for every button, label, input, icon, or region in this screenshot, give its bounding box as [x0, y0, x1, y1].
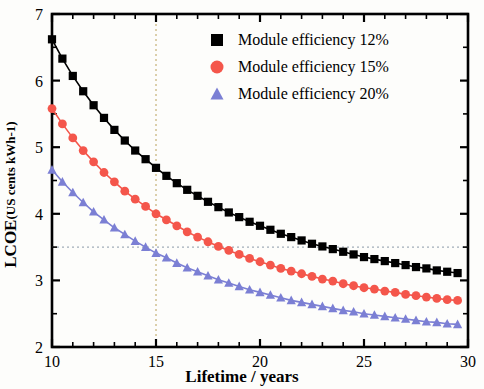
data-point	[401, 290, 410, 299]
data-point	[422, 293, 431, 302]
chart-figure: 1015202530234567 LCOE (US cents kWh-1) L…	[0, 0, 484, 389]
data-point	[422, 264, 430, 272]
data-point	[328, 277, 337, 286]
data-point	[370, 255, 378, 263]
data-point	[204, 237, 213, 246]
data-point	[318, 242, 326, 250]
y-axis-label-unit-close: )	[3, 121, 19, 125]
data-point	[370, 285, 379, 294]
data-point	[256, 257, 265, 266]
data-point	[235, 250, 244, 259]
data-point	[120, 187, 129, 196]
data-point	[443, 268, 451, 276]
data-point	[100, 168, 109, 177]
data-point	[433, 266, 441, 274]
data-point	[152, 164, 160, 172]
data-point	[276, 264, 285, 273]
data-point	[121, 136, 129, 144]
data-point	[69, 72, 77, 80]
data-point	[100, 114, 108, 122]
data-point	[350, 250, 358, 258]
data-point	[141, 202, 150, 211]
y-axis-label-main: LCOE	[1, 220, 21, 268]
y-tick-label: 2	[35, 339, 43, 356]
data-point	[318, 275, 327, 284]
data-point	[110, 126, 118, 134]
data-point	[79, 87, 87, 95]
data-point	[225, 208, 233, 216]
data-point	[360, 253, 368, 261]
data-point	[402, 261, 410, 269]
data-point	[120, 230, 129, 239]
data-point	[142, 155, 150, 163]
data-point	[110, 223, 119, 232]
data-point	[287, 267, 296, 276]
data-point	[193, 233, 202, 242]
data-point	[89, 157, 98, 166]
triangle-marker-icon	[196, 84, 238, 104]
data-point	[183, 186, 191, 194]
legend-item-1: Module efficiency 15%	[196, 53, 389, 80]
y-tick-label: 7	[35, 6, 43, 23]
data-point	[131, 236, 140, 245]
data-point	[214, 203, 222, 211]
data-point	[131, 146, 139, 154]
data-point	[183, 227, 192, 236]
data-point	[131, 195, 140, 204]
data-point	[173, 179, 181, 187]
data-point	[204, 198, 212, 206]
data-point	[99, 215, 108, 224]
data-point	[266, 261, 275, 270]
x-axis-label: Lifetime / years	[0, 367, 484, 387]
data-point	[162, 253, 171, 262]
y-axis-label-unit-open: (US cents kWh	[3, 136, 19, 219]
data-point	[381, 257, 389, 265]
data-point	[58, 119, 67, 128]
data-point	[48, 104, 57, 113]
y-axis-label-unit-sup: -1	[3, 126, 19, 137]
data-point	[224, 246, 233, 255]
data-point	[453, 296, 462, 305]
data-point	[162, 172, 170, 180]
data-point	[245, 254, 254, 263]
data-point	[454, 269, 462, 277]
data-point	[329, 245, 337, 253]
legend-item-0: Module efficiency 12%	[196, 26, 389, 53]
data-point	[172, 221, 181, 230]
data-point	[214, 242, 223, 251]
data-point	[391, 259, 399, 267]
chart-legend: Module efficiency 12% Module efficiency …	[196, 26, 389, 107]
y-tick-label: 5	[35, 139, 43, 156]
legend-label-1: Module efficiency 15%	[238, 53, 389, 80]
data-point	[79, 146, 88, 155]
data-point	[287, 233, 295, 241]
data-point	[266, 226, 274, 234]
series-2	[47, 165, 462, 328]
data-point	[183, 263, 192, 272]
series-line	[52, 109, 458, 301]
data-point	[339, 248, 347, 256]
data-point	[298, 236, 306, 244]
data-point	[194, 192, 202, 200]
data-point	[162, 215, 171, 224]
data-point	[58, 55, 66, 63]
data-point	[48, 35, 56, 43]
data-point	[360, 283, 369, 292]
y-tick-label: 4	[35, 206, 43, 223]
data-point	[172, 258, 181, 267]
data-point	[256, 222, 264, 230]
data-point	[68, 133, 77, 142]
circle-marker-icon	[196, 57, 238, 77]
data-point	[152, 209, 161, 218]
data-point	[297, 269, 306, 278]
y-tick-label: 3	[35, 272, 43, 289]
legend-label-2: Module efficiency 20%	[238, 80, 389, 107]
data-point	[246, 218, 254, 226]
square-marker-icon	[196, 30, 238, 50]
y-tick-label: 6	[35, 73, 43, 90]
legend-label-0: Module efficiency 12%	[238, 26, 389, 53]
y-axis-label: LCOE (US cents kWh-1)	[0, 0, 24, 389]
data-point	[90, 101, 98, 109]
data-point	[308, 272, 317, 281]
legend-item-2: Module efficiency 20%	[196, 80, 389, 107]
